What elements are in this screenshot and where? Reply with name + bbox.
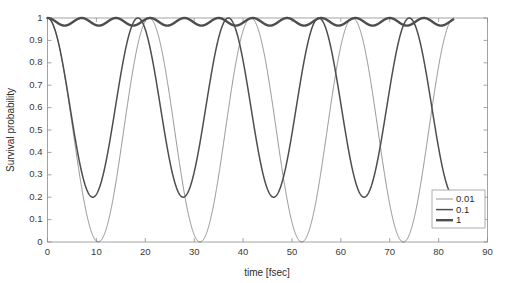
y-tick-label: 0 (37, 236, 42, 247)
y-tick-label: 0.5 (29, 124, 42, 135)
y-axis-label: Survival probability (5, 88, 16, 172)
x-axis-label: time [fsec] (244, 267, 290, 278)
legend-label-0-1: 0.1 (456, 204, 469, 215)
legend-label-0-01: 0.01 (456, 193, 475, 204)
figure-container: 0102030405060708090 00.10.20.30.40.50.60… (0, 0, 509, 283)
x-tick-label: 30 (189, 246, 200, 257)
x-tick-label: 10 (91, 246, 102, 257)
survival-probability-chart: 0102030405060708090 00.10.20.30.40.50.60… (0, 0, 509, 283)
y-tick-label: 0.2 (29, 191, 42, 202)
x-tick-label: 40 (238, 246, 249, 257)
x-tick-label: 0 (45, 246, 50, 257)
y-tick-label: 1 (37, 12, 42, 23)
x-tick-label: 90 (482, 246, 493, 257)
x-tick-label: 60 (336, 246, 347, 257)
y-tick-label: 0.3 (29, 168, 42, 179)
y-tick-label: 0.9 (29, 34, 42, 45)
x-tick-label: 20 (140, 246, 151, 257)
y-tick-label: 0.6 (29, 101, 42, 112)
x-tick-label: 80 (433, 246, 444, 257)
legend-label-1: 1 (456, 214, 461, 225)
y-tick-label: 0.1 (29, 213, 42, 224)
chart-legend: 0.010.11 (432, 190, 485, 228)
y-tick-label: 0.8 (29, 56, 42, 67)
x-tick-label: 70 (384, 246, 395, 257)
y-tick-label: 0.4 (29, 146, 42, 157)
y-tick-label: 0.7 (29, 79, 42, 90)
x-tick-label: 50 (287, 246, 298, 257)
